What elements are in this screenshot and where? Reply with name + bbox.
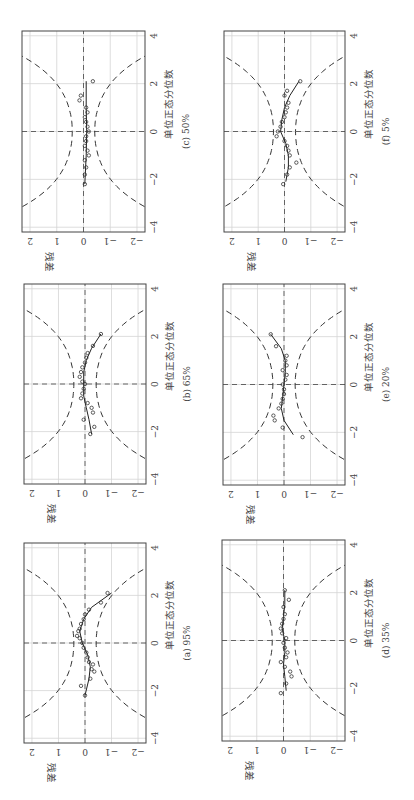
x-axis-label: 单位正态分位数 <box>363 69 374 139</box>
x-axis-label: 单位正态分位数 <box>363 578 374 648</box>
worm-plot-figure: −4−2024−2−1012单位正态分位数(a) 95%残差−4−2024−2−… <box>0 0 414 800</box>
data-point <box>86 351 89 354</box>
x-tick-label: 0 <box>349 381 359 387</box>
x-tick-label: 0 <box>149 128 159 134</box>
data-point <box>284 636 287 639</box>
data-point <box>99 332 102 335</box>
y-tick-label: −1 <box>104 236 117 246</box>
data-point <box>75 634 78 637</box>
figure-rotated: −4−2024−2−1012单位正态分位数(a) 95%残差−4−2024−2−… <box>0 0 414 800</box>
x-tick-label: −4 <box>149 220 159 234</box>
y-tick-label: 1 <box>255 236 261 246</box>
data-point <box>285 89 288 92</box>
x-tick-label: 0 <box>349 637 359 643</box>
data-point <box>277 407 280 410</box>
y-tick-label: −1 <box>105 488 118 498</box>
x-tick-label: 0 <box>349 128 359 134</box>
y-axis-label: 残差 <box>244 761 255 781</box>
y-tick-label: −2 <box>130 236 143 246</box>
x-tick-label: 2 <box>149 81 159 87</box>
panel-f: −4−2024−2−1012单位正态分位数(f) 5%残差 <box>161 31 409 272</box>
x-tick-label: −4 <box>150 472 160 486</box>
data-point <box>286 651 289 654</box>
x-tick-label: 4 <box>349 286 359 292</box>
x-tick-label: 2 <box>150 334 160 340</box>
data-point <box>91 411 94 414</box>
data-point <box>295 161 298 164</box>
y-tick-label: −2 <box>330 236 343 246</box>
y-tick-label: 2 <box>27 236 33 246</box>
y-tick-label: −2 <box>330 489 343 499</box>
panel-a: −4−2024−2−1012单位正态分位数(a) 95%残差 <box>0 543 210 783</box>
panel-d: −4−2024−2−1012单位正态分位数(d) 35%残差 <box>157 540 409 781</box>
panel-caption: (d) 35% <box>381 622 391 658</box>
data-point <box>81 366 84 369</box>
x-tick-label: −2 <box>149 173 159 186</box>
y-axis-label: 残差 <box>246 252 257 272</box>
x-tick-label: 4 <box>349 542 359 548</box>
data-point <box>274 345 277 348</box>
y-axis-label: 残差 <box>44 252 55 272</box>
data-point <box>273 419 276 422</box>
data-point <box>275 135 278 138</box>
data-point <box>84 166 87 169</box>
y-tick-label: 0 <box>82 488 88 498</box>
x-axis-label: 单位正态分位数 <box>163 69 174 139</box>
y-tick-label: 0 <box>80 236 86 246</box>
x-tick-label: −2 <box>349 426 359 439</box>
data-point <box>91 80 94 83</box>
y-tick-label: 0 <box>82 747 88 757</box>
y-axis-label: 残差 <box>245 505 256 525</box>
y-tick-label: 0 <box>280 745 286 755</box>
panel-caption: (a) 95% <box>182 625 192 661</box>
data-point <box>78 375 81 378</box>
y-tick-label: 1 <box>255 489 261 499</box>
data-point <box>272 414 275 417</box>
x-tick-label: 2 <box>349 590 359 596</box>
x-tick-label: −2 <box>349 173 359 186</box>
y-tick-label: 0 <box>281 489 287 499</box>
data-point <box>87 154 90 157</box>
data-point <box>287 598 290 601</box>
x-tick-label: −2 <box>150 684 160 697</box>
data-point <box>301 435 304 438</box>
y-tick-label: 0 <box>281 236 287 246</box>
x-tick-label: 2 <box>150 593 160 599</box>
y-tick-label: −2 <box>131 747 144 757</box>
data-point <box>78 99 81 102</box>
x-tick-label: −4 <box>349 729 359 743</box>
x-tick-label: 4 <box>349 33 359 39</box>
x-tick-label: −4 <box>150 731 160 745</box>
y-tick-label: 2 <box>29 488 35 498</box>
y-tick-label: −2 <box>131 488 144 498</box>
data-point <box>285 354 288 357</box>
panel-e: −4−2024−2−1012单位正态分位数(e) 20%残差 <box>159 284 409 525</box>
data-point <box>284 682 287 685</box>
data-point <box>79 684 82 687</box>
data-point <box>290 675 293 678</box>
y-tick-label: −2 <box>330 745 343 755</box>
y-tick-label: 1 <box>254 745 260 755</box>
y-tick-label: −1 <box>304 489 317 499</box>
panel-b: −4−2024−2−1012单位正态分位数(b) 65%残差 <box>0 284 210 524</box>
x-tick-label: 2 <box>349 81 359 87</box>
data-point <box>287 101 290 104</box>
data-point <box>284 656 287 659</box>
panel-caption: (e) 20% <box>381 366 391 402</box>
x-tick-label: 4 <box>150 286 160 292</box>
x-axis-label: 单位正态分位数 <box>164 321 175 391</box>
x-tick-label: −4 <box>349 473 359 487</box>
y-tick-label: 2 <box>227 745 233 755</box>
x-tick-label: 4 <box>150 545 160 551</box>
data-point <box>106 591 109 594</box>
data-point <box>285 106 288 109</box>
data-point <box>79 94 82 97</box>
panel-caption: (c) 50% <box>181 114 191 149</box>
y-axis-label: 残差 <box>46 504 57 524</box>
y-tick-label: −1 <box>304 236 317 246</box>
data-point <box>279 691 282 694</box>
y-tick-label: −1 <box>304 745 317 755</box>
data-point <box>86 401 89 404</box>
x-tick-label: 0 <box>150 381 160 387</box>
panel-caption: (f) 5% <box>381 117 391 145</box>
